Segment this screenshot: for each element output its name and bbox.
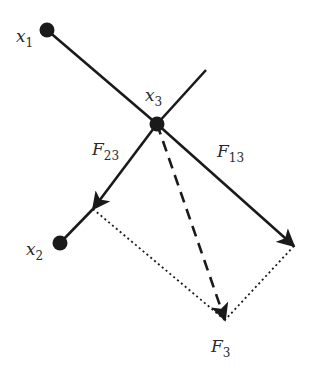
label-f3: F3 xyxy=(210,336,230,360)
parallelogram-side-right xyxy=(225,246,294,320)
point-x3 xyxy=(150,117,165,132)
label-f13: F13 xyxy=(216,141,244,165)
label-x3: x3 xyxy=(145,85,162,109)
line-x3-extension xyxy=(157,70,206,124)
point-x2 xyxy=(53,236,68,251)
force-diagram: x1 x2 x3 F23 F13 F3 xyxy=(0,0,313,378)
force-arrow-f23 xyxy=(93,124,157,209)
label-x1: x1 xyxy=(16,26,33,50)
diagram-svg: x1 x2 x3 F23 F13 F3 xyxy=(0,0,313,378)
label-f23: F23 xyxy=(91,139,119,163)
label-x2: x2 xyxy=(26,239,43,263)
line-x1-x3 xyxy=(47,30,157,124)
point-x1 xyxy=(40,23,55,38)
